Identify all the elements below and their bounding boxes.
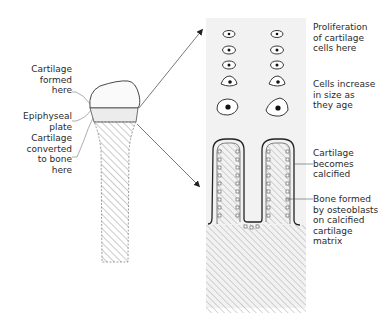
label-cartilage-calcified: Cartilage becomes calcified [313, 148, 354, 180]
label-bone-formed: Bone formed by osteoblasts on calcified … [313, 194, 378, 247]
arrow-to-proliferation [139, 30, 202, 108]
magnified-growth-plate [206, 18, 306, 313]
label-proliferation: Proliferation of cartilage cells here [313, 22, 367, 54]
epiphyseal-plate [90, 108, 138, 122]
arrow-to-calcification [137, 124, 199, 186]
label-cartilage-formed: Cartilage formed here [31, 64, 72, 96]
label-cartilage-converted: Cartilage converted to bone here [26, 133, 72, 175]
label-epiphyseal-plate: Epiphyseal plate [23, 111, 72, 132]
label-cells-increase: Cells increase in size as they age [313, 79, 375, 111]
cartilage-cap [90, 81, 140, 108]
diaphysis [94, 122, 136, 262]
long-bone [90, 81, 140, 262]
bone-matrix [206, 225, 306, 313]
